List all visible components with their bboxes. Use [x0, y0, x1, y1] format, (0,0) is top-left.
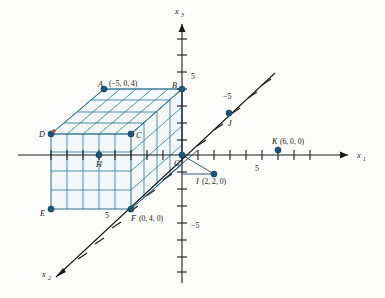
coordinate-system-figure: A (−5, 0, 4) B C D E F (0, 4, 0) G H I (…: [0, 0, 385, 298]
point-D-label: D: [38, 130, 45, 139]
point-H-marker[interactable]: [96, 152, 102, 158]
axis-x2-subscript: 2: [48, 275, 51, 281]
axis-x3-base: x: [174, 7, 179, 16]
point-E-label: E: [39, 209, 45, 218]
axis-x2-base: x: [41, 270, 46, 279]
tick-label-x2-positive-5: 5: [105, 211, 109, 220]
point-J-marker[interactable]: [226, 110, 232, 116]
x1-arrow-icon: [340, 152, 348, 159]
tick-label-x3-positive-5: 5: [191, 72, 195, 81]
point-K-label: K: [271, 137, 278, 146]
figure-canvas: A (−5, 0, 4) B C D E F (0, 4, 0) G H I (…: [0, 0, 385, 298]
point-D-accent-marker: [52, 129, 55, 132]
tick-label-x3-negative-5: −5: [191, 221, 200, 230]
point-A-coords-label: (−5, 0, 4): [109, 79, 138, 88]
point-E-marker[interactable]: [48, 206, 54, 212]
point-F-coords-label: (0, 4, 0): [139, 214, 164, 223]
tick-label-x1-positive-5: 5: [255, 164, 259, 173]
axis-label-x1: x 1: [356, 151, 366, 162]
point-G-label: G: [174, 159, 180, 168]
point-I-coords-label: (2, 2, 0): [202, 177, 227, 186]
point-B-marker[interactable]: [179, 86, 185, 92]
x3-arrow-icon: [179, 24, 186, 32]
point-F-marker[interactable]: [128, 206, 134, 212]
axis-label-x2: x 2: [41, 270, 51, 281]
box-front-face: [51, 134, 131, 209]
axis-label-x3: x 3: [174, 7, 184, 18]
axis-x1-subscript: 1: [363, 156, 366, 162]
point-A-label: A: [97, 80, 104, 89]
point-K-coords-label: (6, 0, 0): [280, 137, 305, 146]
point-J-label: J: [228, 119, 232, 128]
point-K-marker[interactable]: [275, 147, 281, 153]
axis-x1-base: x: [356, 151, 361, 160]
point-I-label: I: [195, 177, 200, 186]
point-H-label: H: [95, 160, 103, 169]
point-G-marker[interactable]: [179, 152, 185, 158]
axis-x3-subscript: 3: [180, 12, 184, 18]
point-C-label: C: [136, 131, 142, 140]
point-C-marker[interactable]: [128, 131, 134, 137]
point-F-label: F: [130, 214, 137, 223]
tick-label-x2-negative-5: −5: [223, 92, 232, 101]
point-B-label: B: [172, 81, 177, 90]
